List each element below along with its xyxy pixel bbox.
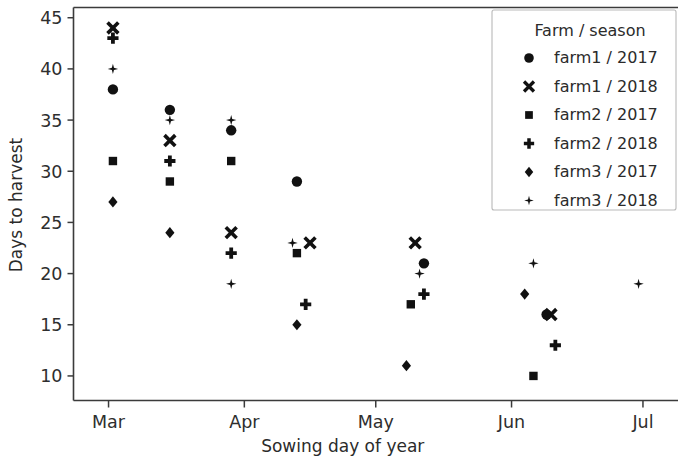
legend-item-label: farm2 / 2017 xyxy=(554,105,658,124)
data-point-star xyxy=(287,238,297,248)
legend-item-label: farm3 / 2018 xyxy=(554,191,658,210)
data-point-plus xyxy=(418,288,429,299)
y-tick-label: 20 xyxy=(40,264,62,284)
y-tick-label: 10 xyxy=(40,366,62,386)
data-point-x xyxy=(164,135,175,146)
legend-title: Farm / season xyxy=(534,21,645,40)
y-tick-label: 40 xyxy=(40,59,62,79)
data-point-square xyxy=(407,300,415,308)
data-point-square xyxy=(109,157,117,165)
circle-icon xyxy=(524,53,534,63)
x-tick-label: Jun xyxy=(497,412,525,432)
data-point-square xyxy=(293,249,301,257)
legend-item-label: farm3 / 2017 xyxy=(554,162,658,181)
series-x xyxy=(108,23,557,320)
data-point-diamond xyxy=(165,227,174,238)
plot-canvas: 1015202530354045MarAprMayJunJul Farm / s… xyxy=(0,0,678,462)
data-point-circle xyxy=(292,176,302,186)
y-tick-label: 30 xyxy=(40,162,62,182)
legend-item-label: farm1 / 2017 xyxy=(554,48,658,67)
data-point-star xyxy=(414,268,424,278)
legend-item-label: farm1 / 2018 xyxy=(554,77,658,96)
data-point-x xyxy=(226,227,237,238)
scatter-plot-figure: 1015202530354045MarAprMayJunJul Farm / s… xyxy=(0,0,678,462)
axis-titles-group: Sowing day of yearDays to harvest xyxy=(6,137,424,456)
x-tick-label: May xyxy=(358,412,394,432)
data-point-star xyxy=(528,258,538,268)
data-point-star xyxy=(108,64,118,74)
data-point-x xyxy=(410,237,421,248)
data-point-star xyxy=(226,279,236,289)
data-point-x xyxy=(108,23,119,34)
data-point-star xyxy=(633,279,643,289)
data-point-star xyxy=(165,115,175,125)
series-square xyxy=(109,157,538,380)
data-point-plus xyxy=(300,299,311,310)
data-point-diamond xyxy=(402,360,411,371)
x-axis-title: Sowing day of year xyxy=(261,436,424,456)
series-diamond xyxy=(108,196,529,371)
square-icon xyxy=(525,111,533,119)
data-point-circle xyxy=(419,258,429,268)
data-point-square xyxy=(227,157,235,165)
x-tick-label: Apr xyxy=(229,412,260,432)
data-point-diamond xyxy=(108,196,117,207)
data-point-plus xyxy=(550,340,561,351)
data-point-circle xyxy=(108,84,118,94)
y-axis-title: Days to harvest xyxy=(6,137,26,272)
y-tick-label: 45 xyxy=(40,8,62,28)
data-point-diamond xyxy=(520,288,529,299)
data-point-star xyxy=(226,115,236,125)
data-point-square xyxy=(529,372,537,380)
data-point-diamond xyxy=(292,319,301,330)
x-tick-label: Mar xyxy=(92,412,126,432)
y-tick-label: 25 xyxy=(40,213,62,233)
y-tick-label: 35 xyxy=(40,111,62,131)
data-point-circle xyxy=(226,125,236,135)
x-tick-label: Jul xyxy=(631,412,653,432)
data-point-plus xyxy=(226,248,237,259)
data-point-plus xyxy=(164,155,175,166)
data-point-circle xyxy=(165,105,175,115)
data-point-x xyxy=(305,237,316,248)
data-point-square xyxy=(166,177,174,185)
legend-item-label: farm2 / 2018 xyxy=(554,134,658,153)
series-circle xyxy=(108,84,552,320)
y-tick-label: 15 xyxy=(40,315,62,335)
legend: Farm / seasonfarm1 / 2017farm1 / 2018far… xyxy=(492,10,676,210)
